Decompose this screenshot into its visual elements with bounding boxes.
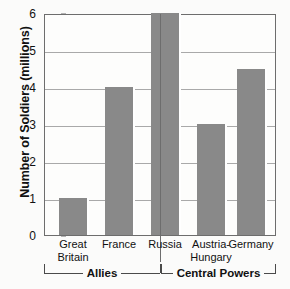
x-axis-category-labels: GreatBritainFranceRussiaAustria-HungaryG… — [44, 238, 276, 264]
group-label: Central Powers — [173, 267, 265, 279]
bar-chart-figure: Number of Soldiers (millions) 0123456 Gr… — [0, 0, 290, 289]
y-tick-label: 5 — [29, 44, 36, 58]
category-label-line: Great — [49, 238, 97, 251]
category-label: France — [95, 238, 143, 251]
bar — [197, 124, 227, 235]
group-bracket: Allies — [44, 264, 160, 282]
category-label: Germany — [227, 238, 275, 251]
y-tick-label: 4 — [29, 81, 36, 95]
category-label: GreatBritain — [49, 238, 97, 263]
group-bracket-rule-left — [44, 273, 83, 274]
bar — [105, 87, 135, 235]
y-tick-label: 0 — [29, 229, 36, 243]
y-tick-label: 2 — [29, 155, 36, 169]
group-bracket-end-tick — [161, 264, 162, 273]
y-tick-label: 6 — [29, 7, 36, 21]
category-label-line: Britain — [49, 251, 97, 264]
group-bracket-end-tick — [44, 264, 45, 273]
category-label: Russia — [141, 238, 189, 251]
group-bracket: Central Powers — [161, 264, 276, 282]
group-bracket-row: AlliesCentral Powers — [44, 264, 276, 284]
group-bracket-rule-right — [121, 273, 160, 274]
y-axis-tick-labels: 0123456 — [22, 14, 36, 236]
y-tick-label: 3 — [29, 118, 36, 132]
category-label-line: Russia — [141, 238, 189, 251]
group-divider-line — [160, 14, 161, 262]
category-label-line: France — [95, 238, 143, 251]
group-bracket-end-tick — [275, 264, 276, 273]
bar — [151, 13, 181, 235]
y-tick-label: 1 — [29, 192, 36, 206]
bar — [237, 69, 267, 236]
category-label-line: Hungary — [187, 251, 235, 264]
group-bracket-rule-left — [161, 273, 173, 274]
category-label-line: Germany — [227, 238, 275, 251]
bar — [59, 198, 89, 235]
group-label: Allies — [83, 267, 122, 279]
